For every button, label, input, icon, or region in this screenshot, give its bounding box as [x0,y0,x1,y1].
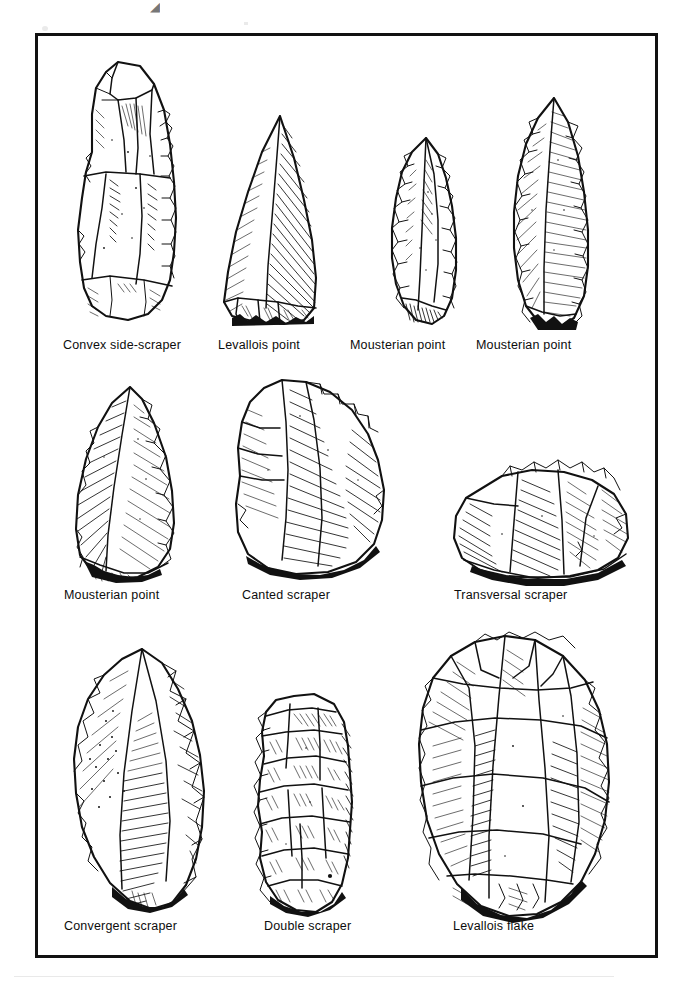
scan-artifact-bottom [14,976,614,977]
figure-mousterian-point-3 [68,379,198,589]
figure-mousterian-point-2 [496,90,606,336]
scan-speck [42,26,48,31]
scan-artifact-top: ◢ [150,2,159,12]
plate-inner: Convex side-scraper Levallois point Mous… [38,36,655,955]
figure-levallois-flake [413,626,635,926]
figure-convergent-scraper [66,641,230,919]
figure-convex-side-scraper [66,48,198,330]
caption-mousterian-point-1: Mousterian point [350,339,445,352]
figure-transversal-scraper [446,446,638,594]
illustration-plate: Convex side-scraper Levallois point Mous… [35,33,658,958]
scan-speck [244,22,248,25]
caption-convergent-scraper: Convergent scraper [64,920,177,933]
figure-levallois-point [218,108,330,333]
caption-convex-side-scraper: Convex side-scraper [63,339,181,352]
caption-levallois-point: Levallois point [218,339,300,352]
caption-levallois-flake: Levallois flake [453,920,534,933]
caption-transversal-scraper: Transversal scraper [454,589,567,602]
caption-double-scraper: Double scraper [264,920,351,933]
figure-canted-scraper [228,370,400,590]
caption-mousterian-point-2: Mousterian point [476,339,571,352]
caption-canted-scraper: Canted scraper [242,589,330,602]
figure-double-scraper [250,684,386,924]
figure-mousterian-point-1 [376,130,472,334]
caption-mousterian-point-3: Mousterian point [64,589,159,602]
